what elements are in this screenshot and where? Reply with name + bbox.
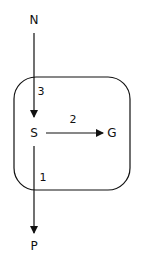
edge-n-s-weight: 3 bbox=[38, 86, 45, 98]
diagram-canvas bbox=[0, 0, 141, 266]
node-g-label: G bbox=[107, 127, 116, 139]
edge-s-g-weight: 2 bbox=[70, 114, 77, 126]
node-p-label: P bbox=[30, 240, 37, 252]
node-s-label: S bbox=[30, 127, 38, 139]
edge-s-p-weight: 1 bbox=[40, 172, 47, 184]
node-n-label: N bbox=[30, 14, 39, 26]
